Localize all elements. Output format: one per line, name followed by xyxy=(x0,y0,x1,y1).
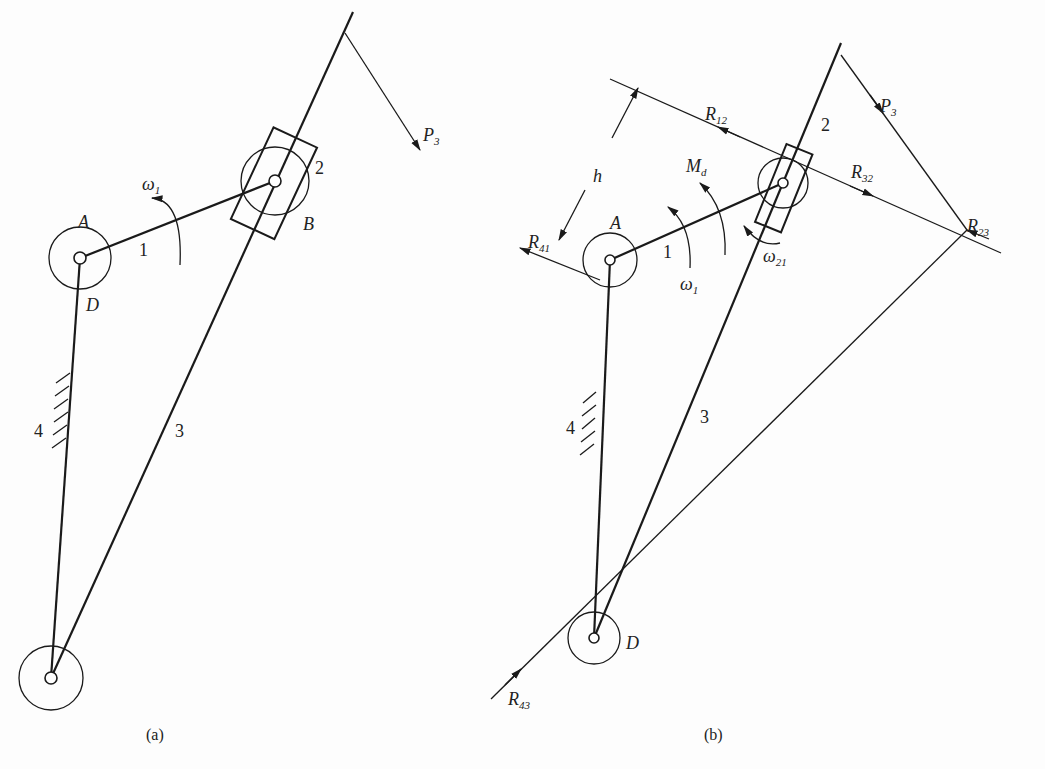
frame-link-4 xyxy=(51,258,80,678)
h-dim-arrow-upper-icon xyxy=(612,88,638,138)
label-b-r23: R23 xyxy=(966,216,990,238)
diagram-svg: A B D 1 2 3 4 ω1 P3 (a) xyxy=(0,0,1045,769)
pin-b-b xyxy=(778,178,788,188)
caption-a: (a) xyxy=(146,726,164,744)
force-r43-arrow-icon xyxy=(505,669,521,685)
label-b-joint-a: A xyxy=(609,213,622,233)
pin-a xyxy=(74,252,86,264)
label-a-link-4: 4 xyxy=(34,421,43,441)
pin-b xyxy=(269,175,281,187)
label-b-link-3: 3 xyxy=(700,407,709,427)
r12-r32-line xyxy=(610,79,1001,253)
figure-a xyxy=(19,12,420,710)
label-b-r43: R43 xyxy=(507,689,531,711)
force-p3-arrow-icon xyxy=(345,33,420,150)
p3-line xyxy=(841,55,967,230)
pin-a-b xyxy=(605,255,615,265)
label-a-link-1: 1 xyxy=(139,240,148,260)
label-b-r32: R32 xyxy=(850,162,874,184)
pin-d xyxy=(45,672,57,684)
figure-b-labels: A D 1 2 3 4 h ω1 ω21 Md P3 R12 R32 R23 R… xyxy=(507,96,990,744)
force-r12-arrow-icon xyxy=(718,127,740,137)
rocker-link-3 xyxy=(51,12,353,678)
label-b-link-1: 1 xyxy=(663,242,672,262)
figure-a-labels: A B D 1 2 3 4 ω1 P3 (a) xyxy=(34,125,440,744)
label-b-joint-d: D xyxy=(625,633,639,653)
r43-line xyxy=(491,230,967,699)
label-b-omega21: ω21 xyxy=(763,246,787,268)
figure-b xyxy=(491,43,1001,699)
caption-b: (b) xyxy=(704,726,723,744)
label-b-omega1: ω1 xyxy=(680,274,698,296)
label-a-link-3: 3 xyxy=(175,421,184,441)
label-a-joint-d: D xyxy=(85,295,99,315)
label-a-joint-a: A xyxy=(77,212,90,232)
label-b-h: h xyxy=(593,166,602,186)
label-b-r41: R41 xyxy=(527,232,550,254)
label-b-r12: R12 xyxy=(704,104,728,126)
crank-link-1-b xyxy=(610,183,783,260)
h-dim-arrow-lower-icon xyxy=(559,190,585,240)
label-a-joint-b: B xyxy=(303,214,314,234)
label-a-omega1: ω1 xyxy=(142,174,160,196)
label-b-md: Md xyxy=(685,156,707,178)
force-r41-arrow-icon xyxy=(520,248,600,280)
mechanism-figure: A B D 1 2 3 4 ω1 P3 (a) xyxy=(0,0,1045,769)
rocker-link-3-b xyxy=(594,43,841,638)
label-a-p3: P3 xyxy=(422,125,440,147)
label-b-link-4: 4 xyxy=(566,418,575,438)
force-r32-arrow-icon xyxy=(850,186,873,196)
label-b-link-2: 2 xyxy=(821,115,830,135)
frame-link-4-b xyxy=(594,260,610,638)
label-a-link-2: 2 xyxy=(315,158,324,178)
ground-hatch-icon-b xyxy=(580,392,596,455)
label-b-p3: P3 xyxy=(879,96,897,118)
omega1-arrow-icon xyxy=(152,198,180,265)
pin-d-b xyxy=(589,633,599,643)
